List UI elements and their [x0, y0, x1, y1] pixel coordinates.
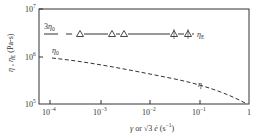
chart: 107 106 105 10−4 10−3 10−2 10−1 1 η , ηE…	[0, 0, 259, 138]
x-tick-1e-3: 10−3	[93, 106, 107, 117]
eta-label: η	[198, 80, 202, 89]
x-tick-1e-2: 10−2	[142, 106, 156, 117]
triangle-marker	[109, 31, 116, 37]
eta-e-label: ηE	[197, 30, 205, 40]
y-tick-1e6: 106	[25, 51, 36, 62]
x-axis-ticks	[50, 100, 200, 104]
triangle-marker	[77, 31, 84, 37]
three-eta0-label: 3η0	[44, 22, 55, 32]
y-tick-1e7: 107	[25, 3, 36, 14]
triangle-marker	[121, 31, 128, 37]
eta0-label: η0	[52, 46, 59, 56]
x-axis-label: γ or √3 ė (s−1)	[130, 122, 174, 133]
x-tick-1e-1: 10−1	[192, 106, 206, 117]
x-tick-1e-4: 10−4	[42, 106, 56, 117]
x-tick-labels: 10−4 10−3 10−2 10−1 1	[42, 106, 251, 117]
x-tick-1: 1	[247, 108, 251, 117]
y-axis-label: η , ηE (Pa-s)	[6, 33, 16, 72]
y-tick-labels: 107 106 105	[25, 3, 36, 109]
y-axis-ticks	[39, 9, 43, 57]
series-eta-e	[66, 29, 194, 39]
series-eta	[52, 58, 247, 104]
plot-frame	[39, 9, 249, 104]
y-tick-1e5: 105	[25, 98, 36, 109]
